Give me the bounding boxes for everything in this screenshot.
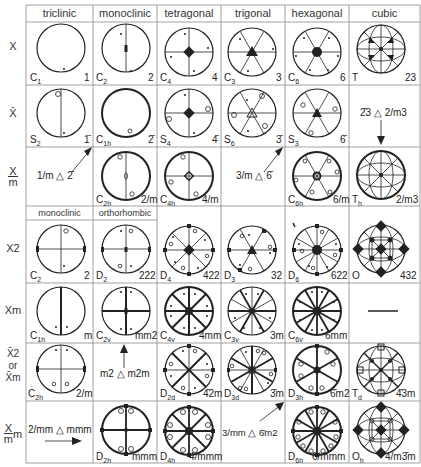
hermann-mauguin-symbol: 3̄ xyxy=(276,134,282,145)
hermann-mauguin-symbol: 4mm xyxy=(199,330,221,341)
hermann-mauguin-symbol: 6 xyxy=(340,72,346,83)
row-label-xbarm: X̄m xyxy=(0,372,26,384)
column-header-monoclinic: monoclinic xyxy=(93,5,157,22)
schoenflies-symbol: D4 xyxy=(160,270,171,283)
hermann-mauguin-symbol: 4/mmm xyxy=(189,451,222,462)
hermann-mauguin-symbol: 1 xyxy=(84,72,90,83)
schoenflies-symbol: C4h xyxy=(160,194,175,207)
column-header-triclinic: triclinic xyxy=(26,5,93,22)
schoenflies-symbol: D3d xyxy=(224,388,239,401)
hermann-mauguin-symbol: 432 xyxy=(400,270,417,281)
schoenflies-symbol: D3h xyxy=(288,388,303,401)
row-label-xbar2-or-xbarm: X̄2 or X̄m xyxy=(0,348,26,384)
hermann-mauguin-symbol: 2/m3 xyxy=(396,194,418,205)
row-label-x-over-m-den: m xyxy=(0,177,26,187)
schoenflies-symbol: S2 xyxy=(30,134,41,147)
hermann-mauguin-symbol: 2/m xyxy=(141,194,158,205)
schoenflies-symbol: D2d xyxy=(160,388,175,401)
schoenflies-symbol: D4h xyxy=(160,451,175,464)
row-label-x: X xyxy=(0,40,26,52)
schoenflies-symbol: D6 xyxy=(288,270,299,283)
hermann-mauguin-symbol: 32 xyxy=(271,270,282,281)
schoenflies-symbol: O xyxy=(352,270,360,281)
hermann-mauguin-symbol: 422 xyxy=(203,270,220,281)
hermann-mauguin-symbol: 222 xyxy=(139,270,156,281)
subheader-orthorhombic: orthorhombic xyxy=(93,205,157,221)
schoenflies-symbol: D2h xyxy=(96,451,111,464)
schoenflies-symbol: S6 xyxy=(224,134,235,147)
schoenflies-symbol: D6h xyxy=(288,451,303,464)
hermann-mauguin-symbol: 6̄ xyxy=(340,134,346,145)
hermann-mauguin-symbol: 622 xyxy=(331,270,348,281)
column-header-tetragonal: tetragonal xyxy=(157,5,221,22)
schoenflies-symbol: T xyxy=(352,72,358,83)
relation-note: 2̄3 △ 2/m3 xyxy=(360,107,407,118)
schoenflies-symbol: C6h xyxy=(288,194,303,207)
hermann-mauguin-symbol: 2/m xyxy=(76,388,93,399)
row-label-xbar: X̄ xyxy=(0,107,26,119)
row-label-x-over-m-m: X m m xyxy=(0,423,26,444)
point-group-table: triclinic monoclinic tetragonal trigonal… xyxy=(0,0,421,467)
relation-note: 3/m △ 6̄ xyxy=(236,170,272,181)
hermann-mauguin-symbol: 3̄m xyxy=(270,388,284,399)
hermann-mauguin-symbol: 6̄m2 xyxy=(330,388,349,399)
column-header-cubic: cubic xyxy=(349,5,420,22)
schoenflies-symbol: C4v xyxy=(160,330,175,343)
schoenflies-symbol: C2h xyxy=(28,388,43,401)
hermann-mauguin-symbol: mm2 xyxy=(135,330,157,341)
hermann-mauguin-symbol: 6/mmm xyxy=(312,451,345,462)
schoenflies-symbol: S3 xyxy=(288,134,299,147)
hermann-mauguin-symbol: 2 xyxy=(84,270,90,281)
row-label-x2: X2 xyxy=(0,242,26,254)
schoenflies-symbol: C2 xyxy=(30,270,41,283)
column-header-trigonal: trigonal xyxy=(221,5,285,22)
schoenflies-symbol: C1 xyxy=(30,72,41,85)
row-label-x-over-m: X m xyxy=(0,166,26,187)
schoenflies-symbol: C2v xyxy=(96,330,111,343)
hermann-mauguin-symbol: 2 xyxy=(148,72,154,83)
schoenflies-symbol: C2 xyxy=(96,72,107,85)
schoenflies-symbol: Td xyxy=(352,388,362,401)
schoenflies-symbol: C6 xyxy=(288,72,299,85)
schoenflies-symbol: C4 xyxy=(160,72,171,85)
row-label-xm: Xm xyxy=(0,304,26,316)
schoenflies-symbol: C1h xyxy=(30,330,45,343)
schoenflies-symbol: Th xyxy=(352,194,362,207)
hermann-mauguin-symbol: 6mm xyxy=(325,330,347,341)
hermann-mauguin-symbol: 6/m xyxy=(333,194,350,205)
hermann-mauguin-symbol: 23 xyxy=(405,72,416,83)
schoenflies-symbol: C1h xyxy=(96,134,111,147)
hermann-mauguin-symbol: 3 xyxy=(276,72,282,83)
hermann-mauguin-symbol: 4 xyxy=(212,72,218,83)
schoenflies-symbol: C3v xyxy=(224,330,239,343)
column-header-hexagonal: hexagonal xyxy=(285,5,349,22)
hermann-mauguin-symbol: 4̄3m xyxy=(396,388,415,399)
hermann-mauguin-symbol: mmm xyxy=(132,451,157,462)
hermann-mauguin-symbol: 4/m xyxy=(202,194,219,205)
schoenflies-symbol: C6v xyxy=(288,330,303,343)
schoenflies-symbol: C2h xyxy=(96,194,111,207)
schoenflies-symbol: D3 xyxy=(224,270,235,283)
hermann-mauguin-symbol: 4̄2m xyxy=(203,388,222,399)
hermann-mauguin-symbol: 1̄ xyxy=(84,134,90,145)
row-label-or: or xyxy=(0,360,26,372)
relation-note: 3/mm △ 6̄m2 xyxy=(222,427,278,438)
schoenflies-symbol: Oh xyxy=(352,451,364,464)
hermann-mauguin-symbol: 4̄ xyxy=(212,134,218,145)
relation-note: 2/mm △ mmm xyxy=(28,424,92,435)
row-label-xbar2: X̄2 xyxy=(0,348,26,360)
hermann-mauguin-symbol: m xyxy=(84,330,92,341)
hermann-mauguin-symbol: 2̄ xyxy=(148,134,154,145)
subheader-monoclinic: monoclinic xyxy=(26,205,93,221)
schoenflies-symbol: D2 xyxy=(96,270,107,283)
relation-note: m2 △ m2m xyxy=(100,368,150,379)
hermann-mauguin-symbol: 3m xyxy=(270,330,284,341)
relation-note: 1/m △ 2̄ xyxy=(37,170,73,181)
hermann-mauguin-symbol: 4/m3̄m xyxy=(385,451,416,462)
schoenflies-symbol: C3 xyxy=(224,72,235,85)
row-label-xmm-m: m xyxy=(13,428,22,440)
row-label-xmm-den: m xyxy=(4,434,13,444)
schoenflies-symbol: S4 xyxy=(160,134,171,147)
